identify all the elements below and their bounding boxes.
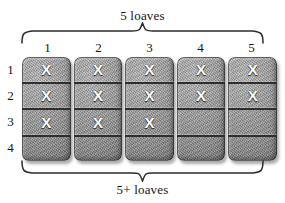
loaf-cell-r1c2: X <box>74 57 123 84</box>
loaf-cell-r3c2: X <box>74 110 123 137</box>
loaf-cell-r4c4 <box>177 137 226 162</box>
top-brace-label: 5 loaves <box>0 8 285 23</box>
loaves-block-diagram: 5 loaves 1 2 3 4 5 1 2 3 4 X X X X X X <box>0 0 285 203</box>
loaf-cell-r2c5: X <box>228 84 277 111</box>
mark-r3c2: X <box>93 115 103 130</box>
row-header-4: 4 <box>2 135 19 161</box>
mark-r2c2: X <box>93 88 103 103</box>
loaf-cell-r4c5 <box>228 137 277 162</box>
loaf-column-5: X X <box>228 57 277 161</box>
loaf-cell-r1c4: X <box>177 57 226 84</box>
loaf-cell-r4c1 <box>22 137 71 162</box>
mark-r2c5: X <box>248 88 258 103</box>
row-header-column: 1 2 3 4 <box>2 57 19 161</box>
mark-r1c1: X <box>41 62 51 77</box>
loaf-cell-r3c1: X <box>22 110 71 137</box>
bottom-brace-label: 5+ loaves <box>0 182 285 197</box>
loaf-cell-r4c2 <box>74 137 123 162</box>
loaf-cell-r3c3: X <box>125 110 174 137</box>
column-header-row: 1 2 3 4 5 <box>22 39 277 56</box>
loaf-cell-r2c4: X <box>177 84 226 111</box>
column-header-3: 3 <box>124 39 175 56</box>
mark-r3c1: X <box>41 115 51 130</box>
column-header-1: 1 <box>22 39 73 56</box>
loaf-cell-r3c5 <box>228 110 277 137</box>
mark-r2c4: X <box>196 88 206 103</box>
loaf-cell-r1c5: X <box>228 57 277 84</box>
mark-r1c4: X <box>196 62 206 77</box>
mark-r1c3: X <box>144 62 154 77</box>
loaf-cell-r2c1: X <box>22 84 71 111</box>
loaf-cell-r1c1: X <box>22 57 71 84</box>
row-header-3: 3 <box>2 109 19 135</box>
mark-r2c3: X <box>144 88 154 103</box>
loaf-cell-r2c3: X <box>125 84 174 111</box>
loaf-cell-r1c3: X <box>125 57 174 84</box>
column-header-4: 4 <box>175 39 226 56</box>
loaf-column-3: X X X <box>125 57 174 161</box>
loaf-cell-r3c4 <box>177 110 226 137</box>
loaf-column-4: X X <box>177 57 226 161</box>
loaf-grid: X X X X X X X X X X X X X <box>22 57 277 161</box>
loaf-cell-r4c3 <box>125 137 174 162</box>
row-header-2: 2 <box>2 83 19 109</box>
mark-r1c5: X <box>248 62 258 77</box>
loaf-column-1: X X X <box>22 57 71 161</box>
mark-r3c3: X <box>144 115 154 130</box>
column-header-2: 2 <box>73 39 124 56</box>
loaf-cell-r2c2: X <box>74 84 123 111</box>
loaf-column-2: X X X <box>74 57 123 161</box>
bottom-curly-brace <box>0 160 285 182</box>
mark-r2c1: X <box>41 88 51 103</box>
mark-r1c2: X <box>93 62 103 77</box>
row-header-1: 1 <box>2 57 19 83</box>
column-header-5: 5 <box>226 39 277 56</box>
